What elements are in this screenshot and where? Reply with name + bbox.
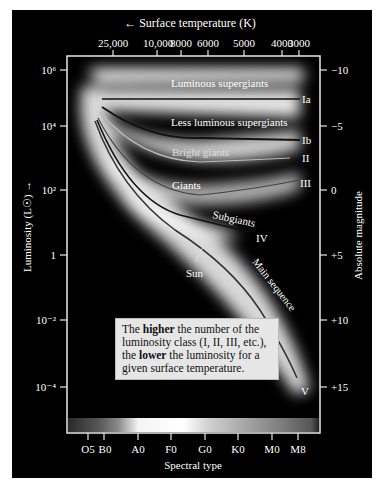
svg-text:F0: F0 <box>165 443 177 455</box>
svg-text:M0: M0 <box>264 443 280 455</box>
svg-text:25,000: 25,000 <box>98 37 129 49</box>
svg-text:IV: IV <box>256 232 268 244</box>
hr-diagram: ← Surface temperature (K) 25,000 10,000 … <box>0 0 382 491</box>
svg-text:V: V <box>301 385 309 397</box>
temperature-ticks <box>113 50 299 56</box>
luminosity-class-note: The higher the number of the luminosity … <box>115 318 279 380</box>
svg-text:+5: +5 <box>331 249 343 261</box>
magnitude-axis-label: Absolute magnitude <box>352 191 364 280</box>
svg-text:10,000: 10,000 <box>143 37 174 49</box>
label-sun: Sun <box>186 267 204 279</box>
spectral-axis-label: Spectral type <box>164 459 222 471</box>
svg-text:−10: −10 <box>331 64 349 76</box>
luminosity-tick-labels: 10⁶ 10⁴ 10² 1 10⁻² 10⁻⁴ <box>35 64 56 393</box>
svg-text:10⁴: 10⁴ <box>41 120 56 132</box>
svg-text:0: 0 <box>331 184 337 196</box>
label-less-luminous-supergiants: Less luminous supergiants <box>171 116 288 128</box>
top-axis-title: ← Surface temperature (K) <box>124 16 256 30</box>
magnitude-tick-labels: −10 −5 0 +5 +10 +15 <box>331 64 349 393</box>
spectral-ticks <box>88 433 298 440</box>
svg-text:K0: K0 <box>231 443 245 455</box>
svg-text:3000: 3000 <box>288 37 311 49</box>
svg-text:−5: −5 <box>331 120 343 132</box>
svg-text:III: III <box>300 177 311 189</box>
svg-text:10⁶: 10⁶ <box>41 64 56 76</box>
svg-text:+10: +10 <box>331 314 349 326</box>
svg-text:1: 1 <box>51 249 57 261</box>
svg-text:+15: +15 <box>331 381 349 393</box>
svg-text:B0: B0 <box>99 443 112 455</box>
svg-text:Ib: Ib <box>302 134 312 146</box>
luminosity-axis-label: Luminosity (L☉) → <box>21 181 34 272</box>
svg-text:5000: 5000 <box>233 37 256 49</box>
svg-text:10⁻⁴: 10⁻⁴ <box>35 381 56 393</box>
svg-text:10⁻²: 10⁻² <box>36 314 57 326</box>
label-bright-giants: Bright giants <box>172 146 229 158</box>
label-giants: Giants <box>172 179 201 191</box>
svg-text:M8: M8 <box>290 443 306 455</box>
label-luminous-supergiants: Luminous supergiants <box>171 77 268 89</box>
spectral-tick-labels: O5 B0 A0 F0 G0 K0 M0 M8 <box>81 443 306 455</box>
spectral-color-bar <box>68 418 319 432</box>
svg-text:6000: 6000 <box>197 37 220 49</box>
label-subgiants: Subgiants <box>212 208 257 229</box>
svg-text:A0: A0 <box>131 443 145 455</box>
svg-text:10²: 10² <box>42 184 57 196</box>
temperature-tick-labels: 25,000 10,000 8000 6000 5000 4000 3000 <box>98 37 311 49</box>
svg-text:II: II <box>302 152 310 164</box>
svg-text:O5: O5 <box>81 443 95 455</box>
svg-text:8000: 8000 <box>170 37 193 49</box>
svg-text:G0: G0 <box>198 443 212 455</box>
magnitude-ticks <box>320 70 327 387</box>
svg-text:Ia: Ia <box>302 93 311 105</box>
luminosity-ticks <box>60 70 67 387</box>
